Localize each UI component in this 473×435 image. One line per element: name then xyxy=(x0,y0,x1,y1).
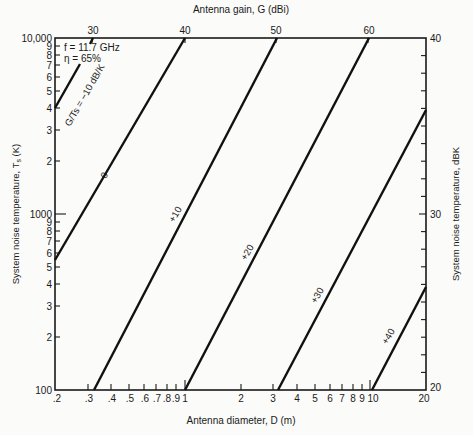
left-tick-600: 6 xyxy=(46,248,52,259)
right-tick-30: 30 xyxy=(430,209,442,220)
top-tick-60: 60 xyxy=(363,25,375,36)
line-plus-20 xyxy=(185,38,369,390)
bottom-axis-ticks xyxy=(88,380,370,390)
left-tick-6000: 6 xyxy=(46,72,52,83)
left-tick-100: 100 xyxy=(35,385,52,396)
left-tick-4000: 4 xyxy=(46,103,52,114)
left-tick-3000: 3 xyxy=(46,125,52,136)
bottom-tick-7: 7 xyxy=(339,393,345,404)
left-tick-5000: 5 xyxy=(46,86,52,97)
nomograph-chart: Antenna gain, G (dBi) 30 40 50 60 100 2 … xyxy=(0,0,473,435)
line-plus-30 xyxy=(278,110,426,390)
right-tick-20: 20 xyxy=(430,382,442,393)
left-tick-400: 4 xyxy=(46,279,52,290)
left-tick-1000: 1000 xyxy=(30,209,53,220)
bottom-tick-2: 2 xyxy=(238,393,244,404)
bottom-tick-20: 20 xyxy=(418,393,430,404)
left-tick-300: 3 xyxy=(46,301,52,312)
left-tick-200: 2 xyxy=(46,332,52,343)
bottom-axis-title: Antenna diameter, D (m) xyxy=(187,415,296,426)
left-tick-10000: 10,000 xyxy=(21,33,52,44)
bottom-tick-8: 8 xyxy=(350,393,356,404)
right-axis-ticks xyxy=(419,56,426,373)
left-tick-7000: 7 xyxy=(46,60,52,71)
top-axis-title: Antenna gain, G (dBi) xyxy=(193,4,289,15)
line-plus-40-label: +40 xyxy=(379,327,397,346)
line-plus-10 xyxy=(94,38,277,390)
bottom-tick-0.9: .9 xyxy=(172,393,181,404)
left-tick-labels: 100 2 3 4 5 6 7 8 9 1000 2 3 4 5 6 7 8 9… xyxy=(21,33,52,396)
frequency-annotation: f = 11.7 GHz xyxy=(64,42,120,53)
bottom-tick-0.4: .4 xyxy=(108,393,117,404)
left-axis-title: System noise temperature, Ts (K) xyxy=(10,144,22,285)
bottom-tick-0.6: .6 xyxy=(141,393,150,404)
bottom-tick-0.5: .5 xyxy=(126,393,135,404)
line-0-label: 0 xyxy=(98,170,110,180)
bottom-tick-labels: .2 .3 .4 .5 .6 .7 .8 .9 1 2 3 4 5 6 7 8 … xyxy=(53,393,430,404)
bottom-tick-10: 10 xyxy=(367,393,379,404)
bottom-tick-6: 6 xyxy=(327,393,333,404)
top-tick-30: 30 xyxy=(87,25,99,36)
top-tick-40: 40 xyxy=(179,25,191,36)
right-tick-40: 40 xyxy=(430,33,442,44)
gt-minus-10-label: G/Ts = −10 dB/K xyxy=(62,62,107,128)
left-tick-2000: 2 xyxy=(46,156,52,167)
top-tick-50: 50 xyxy=(270,25,282,36)
bottom-tick-0.8: .8 xyxy=(163,393,172,404)
bottom-tick-0.2: .2 xyxy=(53,393,62,404)
right-axis-title: System noise temperature, dBK xyxy=(450,146,461,281)
left-tick-500: 5 xyxy=(46,262,52,273)
bottom-tick-0.7: .7 xyxy=(153,393,162,404)
left-tick-700: 7 xyxy=(46,236,52,247)
efficiency-annotation: η = 65% xyxy=(64,53,101,64)
bottom-tick-9: 9 xyxy=(359,393,365,404)
bottom-tick-0.3: .3 xyxy=(85,393,94,404)
bottom-tick-3: 3 xyxy=(270,393,276,404)
bottom-tick-1: 1 xyxy=(182,393,188,404)
bottom-tick-4: 4 xyxy=(294,393,300,404)
bottom-tick-5: 5 xyxy=(312,393,318,404)
